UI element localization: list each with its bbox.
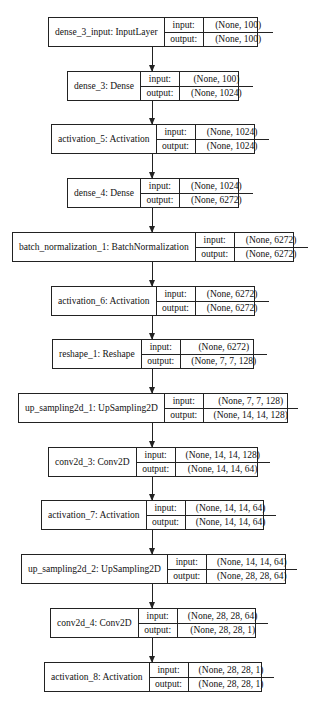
output-shape: (None, 7, 7, 128) xyxy=(181,355,267,369)
input-row: input: (None, 7, 7, 128) xyxy=(165,394,298,408)
output-row: output: (None, 6272) xyxy=(157,301,269,316)
layer-shapes: input: (None, 6272) output: (None, 6272) xyxy=(196,233,308,261)
layer-node-11: conv2d_4: Conv2D input: (None, 28, 28, 6… xyxy=(50,608,256,638)
output-key: output: xyxy=(141,194,180,208)
output-key: output: xyxy=(157,302,196,316)
input-row: input: (None, 6272) xyxy=(196,233,308,247)
layer-node-8: conv2d_3: Conv2D input: (None, 14, 14, 1… xyxy=(48,447,258,477)
input-shape: (None, 28, 28, 64) xyxy=(178,609,268,623)
edge-arrow-icon xyxy=(152,530,153,554)
output-row: output: (None, 6272) xyxy=(196,247,308,262)
output-shape: (None, 6272) xyxy=(196,302,269,316)
output-row: output: (None, 14, 14, 64) xyxy=(147,515,276,530)
output-shape: (None, 14, 14, 128) xyxy=(204,409,298,423)
output-key: output: xyxy=(196,248,235,262)
edge-arrow-icon xyxy=(152,477,153,500)
output-row: output: (None, 14, 14, 128) xyxy=(165,408,298,423)
input-row: input: (None, 100) xyxy=(165,18,273,32)
layer-node-6: reshape_1: Reshape input: (None, 6272) o… xyxy=(52,339,254,369)
output-key: output: xyxy=(165,33,204,47)
input-shape: (None, 1024) xyxy=(196,125,269,139)
layer-node-2: activation_5: Activation input: (None, 1… xyxy=(51,124,255,154)
input-shape: (None, 28, 28, 1) xyxy=(189,663,274,677)
edge-arrow-icon xyxy=(152,638,153,662)
output-row: output: (None, 100) xyxy=(165,32,273,47)
output-shape: (None, 100) xyxy=(204,33,273,47)
input-shape: (None, 1024) xyxy=(180,179,253,193)
output-shape: (None, 28, 28, 1) xyxy=(189,678,274,692)
edge-arrow-icon xyxy=(152,47,153,71)
layer-node-4: batch_normalization_1: BatchNormalizatio… xyxy=(12,232,294,262)
layer-shapes: input: (None, 100) output: (None, 1024) xyxy=(141,72,253,100)
input-row: input: (None, 1024) xyxy=(157,125,269,139)
layer-node-12: activation_8: Activation input: (None, 2… xyxy=(44,662,262,692)
layer-node-9: activation_7: Activation input: (None, 1… xyxy=(41,500,264,530)
output-row: output: (None, 14, 14, 64) xyxy=(137,462,270,477)
layer-shapes: input: (None, 28, 28, 64) output: (None,… xyxy=(139,609,268,637)
edge-arrow-icon xyxy=(152,154,153,178)
output-shape: (None, 1024) xyxy=(180,87,253,101)
input-key: input: xyxy=(147,501,186,515)
input-row: input: (None, 100) xyxy=(141,72,253,86)
input-key: input: xyxy=(157,287,196,301)
output-key: output: xyxy=(147,516,186,530)
input-key: input: xyxy=(139,609,178,623)
input-shape: (None, 100) xyxy=(204,18,273,32)
input-key: input: xyxy=(165,394,204,408)
layer-shapes: input: (None, 14, 14, 128) output: (None… xyxy=(137,448,270,476)
edge-arrow-icon xyxy=(152,584,153,608)
input-row: input: (None, 14, 14, 64) xyxy=(168,555,297,569)
input-key: input: xyxy=(157,125,196,139)
edge-arrow-icon xyxy=(152,316,153,339)
output-key: output: xyxy=(141,87,180,101)
input-shape: (None, 14, 14, 128) xyxy=(176,448,270,462)
layer-name: up_sampling2d_2: UpSampling2D xyxy=(22,555,168,583)
input-row: input: (None, 6272) xyxy=(142,340,267,354)
layer-name: reshape_1: Reshape xyxy=(53,340,142,368)
input-shape: (None, 100) xyxy=(180,72,253,86)
input-row: input: (None, 1024) xyxy=(141,179,253,193)
output-row: output: (None, 28, 28, 1) xyxy=(150,677,274,692)
input-shape: (None, 6272) xyxy=(196,287,269,301)
input-key: input: xyxy=(141,72,180,86)
layer-node-1: dense_3: Dense input: (None, 100) output… xyxy=(67,71,239,101)
input-shape: (None, 7, 7, 128) xyxy=(204,394,298,408)
layer-shapes: input: (None, 14, 14, 64) output: (None,… xyxy=(168,555,297,583)
input-row: input: (None, 28, 28, 1) xyxy=(150,663,274,677)
layer-name: batch_normalization_1: BatchNormalizatio… xyxy=(13,233,196,261)
layer-shapes: input: (None, 28, 28, 1) output: (None, … xyxy=(150,663,274,691)
layer-shapes: input: (None, 1024) output: (None, 1024) xyxy=(157,125,269,153)
layer-name: dense_3: Dense xyxy=(68,72,141,100)
layer-name: activation_6: Activation xyxy=(52,287,157,315)
input-key: input: xyxy=(165,18,204,32)
output-key: output: xyxy=(150,678,189,692)
input-shape: (None, 14, 14, 64) xyxy=(207,555,297,569)
output-shape: (None, 6272) xyxy=(180,194,253,208)
output-key: output: xyxy=(142,355,181,369)
layer-node-5: activation_6: Activation input: (None, 6… xyxy=(51,286,255,316)
edge-arrow-icon xyxy=(152,262,153,286)
output-row: output: (None, 28, 28, 64) xyxy=(168,569,297,584)
input-key: input: xyxy=(150,663,189,677)
layer-name: dense_4: Dense xyxy=(68,179,141,207)
output-key: output: xyxy=(139,624,178,638)
output-key: output: xyxy=(157,140,196,154)
input-shape: (None, 14, 14, 64) xyxy=(186,501,276,515)
input-row: input: (None, 28, 28, 64) xyxy=(139,609,268,623)
output-shape: (None, 28, 28, 64) xyxy=(207,570,297,584)
layer-name: dense_3_input: InputLayer xyxy=(49,18,165,46)
input-key: input: xyxy=(137,448,176,462)
output-shape: (None, 28, 28, 1) xyxy=(178,624,268,638)
input-shape: (None, 6272) xyxy=(235,233,308,247)
output-row: output: (None, 1024) xyxy=(157,139,269,154)
layer-name: conv2d_4: Conv2D xyxy=(51,609,139,637)
layer-node-7: up_sampling2d_1: UpSampling2D input: (No… xyxy=(18,393,288,423)
layer-node-0: dense_3_input: InputLayer input: (None, … xyxy=(48,17,258,47)
layer-shapes: input: (None, 6272) output: (None, 6272) xyxy=(157,287,269,315)
layer-shapes: input: (None, 100) output: (None, 100) xyxy=(165,18,273,46)
layer-shapes: input: (None, 14, 14, 64) output: (None,… xyxy=(147,501,276,529)
output-key: output: xyxy=(137,463,176,477)
layer-name: up_sampling2d_1: UpSampling2D xyxy=(19,394,165,422)
output-shape: (None, 14, 14, 64) xyxy=(176,463,270,477)
edge-arrow-icon xyxy=(152,101,153,124)
